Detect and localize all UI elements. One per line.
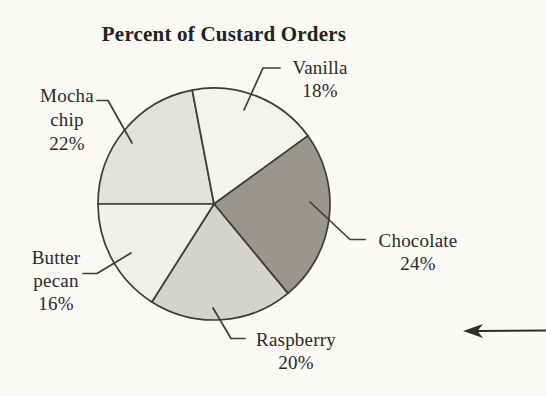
custard-orders-pie-figure: Percent of Custard Orders Vanilla 18% Mo… <box>0 0 546 396</box>
label-mocha-chip-name2: chip <box>25 108 109 132</box>
label-vanilla: Vanilla 18% <box>282 56 358 102</box>
label-butter-pecan-name1: Butter <box>14 246 98 269</box>
label-raspberry: Raspberry 20% <box>246 328 346 374</box>
label-mocha-chip: Mocha chip 22% <box>25 84 109 156</box>
label-vanilla-name: Vanilla <box>282 56 358 79</box>
label-mocha-chip-value: 22% <box>25 132 109 156</box>
label-chocolate-name: Chocolate <box>368 229 468 252</box>
left-arrow-icon <box>463 324 546 338</box>
label-butter-pecan: Butter pecan 16% <box>14 246 98 315</box>
label-butter-pecan-name2: pecan <box>14 269 98 292</box>
label-butter-pecan-value: 16% <box>14 292 98 315</box>
label-mocha-chip-name1: Mocha <box>25 84 109 108</box>
label-raspberry-name: Raspberry <box>246 328 346 351</box>
pie-slices-group <box>98 88 330 320</box>
label-chocolate: Chocolate 24% <box>368 229 468 275</box>
label-vanilla-value: 18% <box>282 79 358 102</box>
label-chocolate-value: 24% <box>368 252 468 275</box>
label-raspberry-value: 20% <box>246 351 346 374</box>
